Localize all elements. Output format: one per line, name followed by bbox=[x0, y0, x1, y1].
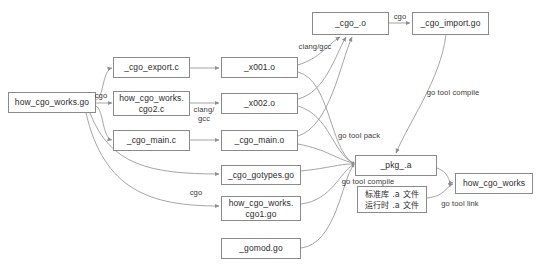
edge-label-cgo-bottom: cgo bbox=[186, 188, 206, 197]
node-cgo-main-o[interactable]: _cgo_main.o bbox=[221, 130, 298, 151]
edge-main-o-to-pkg-a bbox=[298, 144, 353, 163]
node-stdlib-runtime-archives[interactable]: 标准库 .a 文件 运行时 .a 文件 bbox=[357, 186, 427, 213]
edge-label-go-tool-link: go tool link bbox=[432, 199, 488, 208]
edge-label-go-tool-compile-bottom: go tool compile bbox=[333, 177, 403, 186]
node-how-cgo-works-go[interactable]: how_cgo_works.go bbox=[8, 92, 96, 113]
node-x001-o[interactable]: _x001.o bbox=[221, 57, 298, 78]
node-cgo-dot-o[interactable]: _cgo_.o bbox=[312, 12, 389, 35]
edge-src-to-cgo-main-c bbox=[96, 106, 112, 140]
node-how-cgo-works-binary[interactable]: how_cgo_works bbox=[455, 173, 533, 194]
node-cgo-main-c[interactable]: _cgo_main.c bbox=[113, 130, 190, 151]
edge-stdlib-to-binary bbox=[427, 184, 453, 198]
diagram-canvas: how_cgo_works.go _cgo_export.c how_cgo_w… bbox=[0, 0, 545, 273]
edge-label-cgo-top: cgo bbox=[91, 91, 111, 100]
edge-main-o-to-cgo-dot-o bbox=[298, 37, 352, 136]
node-x002-o[interactable]: _x002.o bbox=[221, 93, 298, 114]
node-cgo-export-c[interactable]: _cgo_export.c bbox=[113, 57, 190, 78]
node-pkg-a[interactable]: _pkg_.a bbox=[355, 155, 437, 176]
node-gomod-go[interactable]: _gomod.go bbox=[221, 238, 301, 259]
edge-label-clang-gcc-top: clang/gcc bbox=[292, 42, 338, 51]
node-cgo-gotypes-go[interactable]: _cgo_gotypes.go bbox=[221, 165, 301, 185]
edge-pkg-a-to-binary bbox=[437, 168, 453, 183]
edge-x001-to-pkg-a bbox=[298, 72, 353, 163]
edge-label-clang-gcc-middle: clang/ gcc bbox=[190, 105, 218, 123]
node-how-cgo-works-cgo2-c[interactable]: how_cgo_works. cgo2.c bbox=[113, 91, 190, 116]
node-cgo-import-go[interactable]: _cgo_import.go bbox=[412, 12, 489, 35]
node-how-cgo-works-cgo1-go[interactable]: how_cgo_works. cgo1.go bbox=[221, 196, 301, 221]
edge-label-go-tool-compile-right: go tool compile bbox=[418, 88, 488, 97]
edge-label-go-tool-pack: go tool pack bbox=[330, 131, 388, 140]
edge-gotypes-to-pkg-a bbox=[301, 164, 353, 171]
edge-label-cgo-import: cgo bbox=[390, 12, 410, 21]
